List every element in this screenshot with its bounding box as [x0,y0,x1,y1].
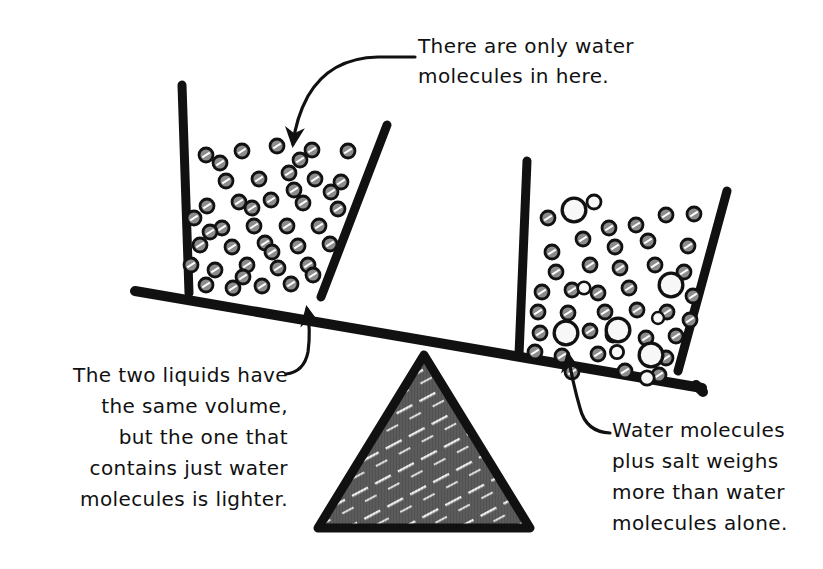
left-beaker [182,85,387,297]
fulcrum-triangle [318,355,530,528]
right-beaker [519,161,727,387]
caption-right-salt-heavier: Water molecules plus salt weighs more th… [612,415,823,539]
diagram-canvas: There are only water molecules in here. … [0,0,823,569]
leader-top-caption [293,57,415,144]
caption-left-same-volume: The two liquids have the same volume, bu… [8,360,288,515]
caption-top-water-only: There are only water molecules in here. [418,31,748,91]
